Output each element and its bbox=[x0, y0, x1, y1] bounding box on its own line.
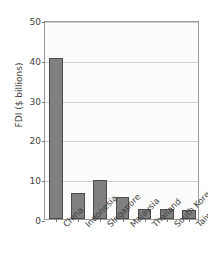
x-label-taiwan: Taiwan bbox=[194, 222, 201, 229]
x-label-malaysia: Malaysia bbox=[128, 222, 135, 229]
x-label-singapore: Singapore bbox=[105, 222, 112, 229]
plot-area: 01020304050 bbox=[44, 21, 199, 220]
x-axis-labels: ChinaIndonesiaSingaporeMalaysiaThailandS… bbox=[44, 222, 199, 276]
x-label-china: China bbox=[61, 222, 68, 229]
bar-chart-figure: FDI ($ billions) 01020304050 ChinaIndone… bbox=[0, 0, 208, 276]
y-tick-label: 40 bbox=[5, 58, 41, 67]
x-label-indonesia: Indonesia bbox=[83, 222, 90, 229]
y-tick-label: 20 bbox=[5, 137, 41, 146]
bar-series bbox=[45, 22, 198, 219]
y-tick-label: 30 bbox=[5, 98, 41, 107]
x-label-thailand: Thailand bbox=[150, 222, 157, 229]
y-tick-label: 0 bbox=[5, 217, 41, 226]
x-label-south-korea: South Korea bbox=[172, 222, 179, 229]
bar-china bbox=[49, 58, 63, 219]
y-tick-label: 50 bbox=[5, 18, 41, 27]
y-tick-label: 10 bbox=[5, 177, 41, 186]
